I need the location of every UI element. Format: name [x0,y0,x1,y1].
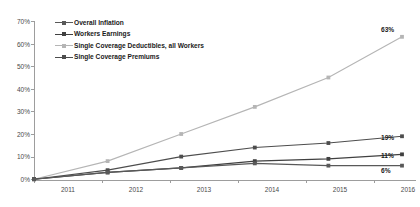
legend-item-overall-inflation[interactable]: Overall Inflation [55,17,204,29]
series-marker [106,159,110,163]
series-marker [327,157,331,161]
series-marker [106,171,110,175]
legend-swatch-icon [55,30,73,39]
series-line [34,154,402,179]
series-marker [253,161,257,165]
series-marker [253,146,257,150]
series-marker [400,164,404,168]
data-label-earnings: 11% [381,152,394,160]
series-marker [179,132,183,136]
series-marker [253,105,257,109]
series-marker [400,35,404,39]
series-marker [327,141,331,145]
legend-item-single-coverage-premiums[interactable]: Single Coverage Premiums [55,52,204,64]
line-chart: 70% 60% 50% 40% 30% 20% 10% 0% 2011 2012… [0,0,420,207]
legend-swatch-icon [55,18,73,27]
series-marker [327,164,331,168]
data-label-deductibles: 63% [381,26,394,34]
legend-label: Single Coverage Deductibles, all Workers [74,42,204,50]
series-marker [32,177,36,181]
series-marker [327,76,331,80]
series-marker [179,155,183,159]
data-label-premiums: 19% [381,134,394,142]
data-label-inflation: 6% [381,167,391,175]
series-marker [179,166,183,170]
legend-label: Single Coverage Premiums [74,53,159,61]
legend-item-single-coverage-deductibles[interactable]: Single Coverage Deductibles, all Workers [55,40,204,52]
chart-legend: Overall Inflation Workers Earnings Singl… [55,17,204,63]
legend-label: Workers Earnings [74,30,130,38]
series-marker [400,134,404,138]
legend-swatch-icon [55,53,73,62]
series-marker [400,152,404,156]
legend-label: Overall Inflation [74,19,124,27]
legend-swatch-icon [55,41,73,50]
legend-item-workers-earnings[interactable]: Workers Earnings [55,29,204,41]
